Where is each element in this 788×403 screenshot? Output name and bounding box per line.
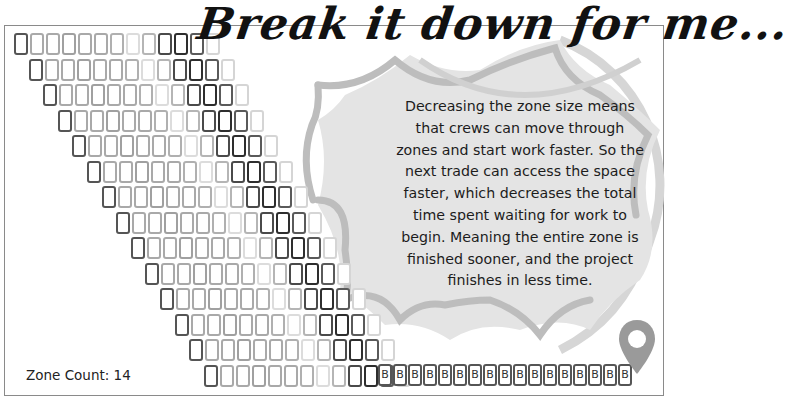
map-pin-icon	[617, 318, 657, 376]
zone-row	[175, 314, 381, 336]
explanation-line: faster, which decreases the total	[372, 183, 668, 205]
zone-cell	[78, 33, 92, 55]
zone-cell	[303, 314, 317, 336]
explanation-line: Decreasing the zone size means	[372, 96, 668, 118]
zone-cell	[287, 314, 301, 336]
b-zone-cell: B	[378, 364, 392, 386]
zone-cell	[255, 314, 269, 336]
zone-row	[87, 161, 293, 183]
zone-cell	[154, 110, 168, 132]
zone-row	[72, 135, 278, 157]
zone-cell	[323, 237, 337, 259]
zone-cell	[88, 135, 102, 157]
b-zone-cell: B	[513, 364, 527, 386]
zone-row	[131, 237, 337, 259]
zone-cell	[74, 110, 88, 132]
zone-cell	[163, 237, 177, 259]
zone-cell	[289, 263, 303, 285]
zone-row	[29, 59, 235, 81]
zone-cell	[58, 110, 72, 132]
zone-cell	[29, 59, 43, 81]
zone-row	[116, 212, 322, 234]
zone-cell	[234, 110, 248, 132]
zone-cell	[333, 339, 347, 361]
zone-cell	[316, 365, 330, 387]
zone-cell	[218, 110, 232, 132]
zone-cell	[90, 110, 104, 132]
zone-cell	[259, 237, 273, 259]
zone-cell	[157, 59, 171, 81]
zone-cell	[256, 288, 270, 310]
zone-row	[14, 33, 220, 55]
zone-cell	[167, 161, 181, 183]
zone-cell	[240, 288, 254, 310]
zone-cell	[253, 339, 267, 361]
zone-cell	[148, 212, 162, 234]
zone-cell	[288, 288, 302, 310]
zone-cell	[136, 135, 150, 157]
zone-cell	[103, 161, 117, 183]
zone-cell	[271, 314, 285, 336]
zone-cell	[348, 365, 362, 387]
zone-cell	[110, 33, 124, 55]
zone-cell	[104, 135, 118, 157]
zone-cell	[62, 33, 76, 55]
zone-count-label: Zone Count: 14	[26, 367, 131, 383]
zone-row	[43, 84, 249, 106]
zone-row	[160, 288, 366, 310]
zone-cell	[332, 365, 346, 387]
zone-cell	[166, 186, 180, 208]
zone-cell	[241, 263, 255, 285]
zone-cell	[119, 161, 133, 183]
zone-cell	[107, 84, 121, 106]
zone-cell	[273, 263, 287, 285]
zone-cell	[125, 59, 139, 81]
zone-cell	[198, 186, 212, 208]
zone-cell	[305, 263, 319, 285]
explanation-line: that crews can move through	[372, 118, 668, 140]
zone-cell	[284, 365, 298, 387]
zone-row	[58, 110, 264, 132]
zone-cell	[161, 263, 175, 285]
zone-cell	[30, 33, 44, 55]
zone-cell	[147, 237, 161, 259]
zone-cell	[195, 237, 209, 259]
zone-cell	[269, 339, 283, 361]
zone-cell	[205, 339, 219, 361]
zone-cell	[142, 33, 156, 55]
zone-cell	[207, 314, 221, 336]
zone-cell	[189, 339, 203, 361]
zone-cell	[77, 59, 91, 81]
zone-cell	[220, 365, 234, 387]
zone-cell	[131, 237, 145, 259]
zone-cell	[200, 135, 214, 157]
zone-cell	[179, 237, 193, 259]
zone-cell	[151, 161, 165, 183]
zone-cell	[244, 212, 258, 234]
zone-cell	[193, 263, 207, 285]
zone-cell	[257, 263, 271, 285]
zone-cell	[279, 161, 293, 183]
zone-cell	[75, 84, 89, 106]
zone-cell	[301, 339, 315, 361]
zone-cell	[94, 33, 108, 55]
zone-cell	[205, 59, 219, 81]
b-zone-cell: B	[483, 364, 497, 386]
zone-cell	[367, 314, 381, 336]
explanation-line: finishes in less time.	[372, 270, 668, 292]
zone-cell	[168, 135, 182, 157]
zone-cell	[319, 314, 333, 336]
zone-cell	[203, 84, 217, 106]
zone-cell	[263, 161, 277, 183]
b-zone-cell: B	[453, 364, 467, 386]
zone-cell	[208, 288, 222, 310]
zone-cell	[138, 110, 152, 132]
explanation-line: begin. Meaning the entire zone is	[372, 227, 668, 249]
zone-cell	[223, 314, 237, 336]
zone-cell	[176, 288, 190, 310]
zone-cell	[118, 186, 132, 208]
zone-cell	[337, 263, 351, 285]
zone-cell	[216, 135, 230, 157]
b-zone-cell: B	[468, 364, 482, 386]
zone-cell	[132, 212, 146, 234]
